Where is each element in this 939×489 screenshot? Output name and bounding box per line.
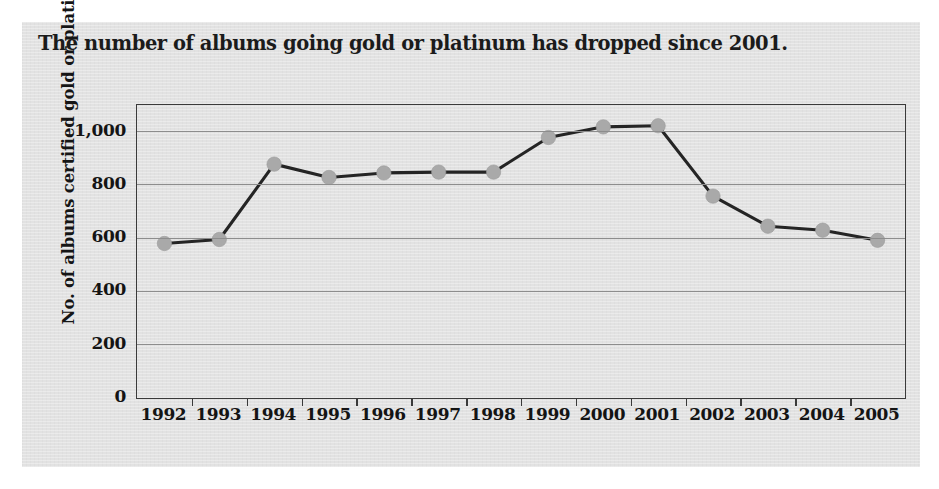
y-tick-label-1000: 1,000 <box>56 120 126 140</box>
data-point-2004 <box>816 223 830 237</box>
gridline-y-600 <box>137 238 905 239</box>
data-point-2005 <box>870 233 884 247</box>
figure-root: The number of albums going gold or plati… <box>0 0 939 489</box>
series-svg <box>137 105 905 398</box>
data-point-1994 <box>267 157 281 171</box>
plot-area <box>136 104 906 399</box>
x-tick-label-2005: 2005 <box>837 404 917 424</box>
gridline-y-400 <box>137 291 905 292</box>
data-point-2002 <box>706 189 720 203</box>
data-point-1999 <box>541 130 555 144</box>
data-point-1993 <box>212 232 226 246</box>
data-point-2003 <box>761 219 775 233</box>
data-point-1998 <box>486 165 500 179</box>
y-tick-label-600: 600 <box>56 226 126 246</box>
data-point-1996 <box>377 166 391 180</box>
gridline-y-1000 <box>137 131 905 132</box>
data-point-1997 <box>432 165 446 179</box>
y-tick-label-200: 200 <box>56 333 126 353</box>
y-tick-label-0: 0 <box>56 386 126 406</box>
plot-wrapper: No. of albums certified gold or platinum… <box>0 0 939 489</box>
y-tick-label-800: 800 <box>56 173 126 193</box>
y-tick-label-400: 400 <box>56 279 126 299</box>
gridline-y-200 <box>137 344 905 345</box>
data-point-1995 <box>322 170 336 184</box>
y-axis-tick-labels: 02004006008001,000 <box>48 0 126 489</box>
gridline-y-800 <box>137 184 905 185</box>
